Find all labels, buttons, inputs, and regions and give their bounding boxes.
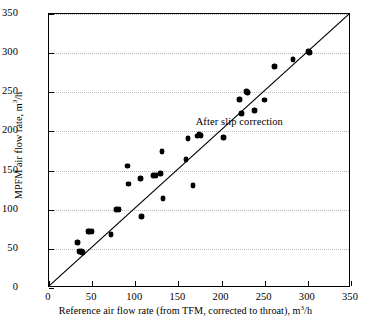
x-tick-label: 300 <box>287 292 327 303</box>
y-tick-label: 0 <box>0 282 18 293</box>
x-axis-title: Reference air flow rate (from TFM, corre… <box>0 305 371 316</box>
annotation-after-slip-correction: After slip correction <box>196 116 283 127</box>
x-tick-label: 150 <box>157 292 197 303</box>
data-point <box>186 136 191 141</box>
data-point <box>161 196 166 201</box>
data-point <box>160 149 165 154</box>
y-tick-label: 150 <box>0 165 18 176</box>
data-point <box>239 111 244 116</box>
y-tick-label: 100 <box>0 204 18 215</box>
data-point <box>75 240 80 245</box>
data-point <box>191 183 196 188</box>
data-point <box>199 133 204 138</box>
data-point <box>252 108 257 113</box>
data-point <box>272 64 277 69</box>
x-tick-label: 250 <box>244 292 284 303</box>
data-point <box>237 97 242 102</box>
data-point <box>125 164 130 169</box>
y-axis-unit-exponent: 3 <box>11 100 18 104</box>
plot-area: After slip correction <box>48 13 350 287</box>
x-tick-label: 50 <box>71 292 111 303</box>
data-point <box>139 214 144 219</box>
data-point <box>184 157 189 162</box>
data-point <box>117 207 122 212</box>
y-axis-title-container: MPFM air flow rate, m3/h <box>0 0 18 300</box>
x-tick-label: 350 <box>330 292 370 303</box>
x-axis-title-text: Reference air flow rate (from TFM, corre… <box>59 305 301 316</box>
data-point <box>291 57 296 62</box>
data-point <box>126 182 131 187</box>
data-point <box>158 171 163 176</box>
scatter-series <box>49 14 349 286</box>
data-point <box>90 229 95 234</box>
y-tick-label: 50 <box>0 243 18 254</box>
data-point <box>262 98 267 103</box>
x-tick-label: 100 <box>114 292 154 303</box>
data-point <box>221 135 226 140</box>
y-tick-label: 300 <box>0 47 18 58</box>
y-tick-label: 250 <box>0 86 18 97</box>
data-point <box>307 50 312 55</box>
x-tick-label: 200 <box>201 292 241 303</box>
data-point <box>245 90 250 95</box>
x-tick-label: 0 <box>28 292 68 303</box>
y-tick-mark <box>49 288 54 289</box>
chart-figure: MPFM air flow rate, m3/h After slip corr… <box>0 0 371 321</box>
data-point <box>109 232 114 237</box>
y-axis-title-text: MPFM air flow rate, m <box>13 103 24 199</box>
x-tick-mark <box>351 281 352 286</box>
y-tick-label: 350 <box>0 8 18 19</box>
x-axis-unit-suffix: /h <box>304 305 312 316</box>
data-point <box>80 250 85 255</box>
y-tick-label: 200 <box>0 125 18 136</box>
data-point <box>138 176 143 181</box>
